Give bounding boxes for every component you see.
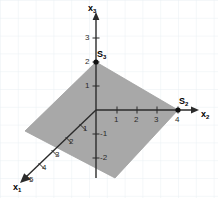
x1-tick-label-3: 3 — [55, 151, 59, 159]
x3-axis-label: x3 — [88, 4, 96, 13]
point-S2-marker — [175, 107, 180, 112]
x3-tick-label-3: 3 — [85, 34, 89, 42]
point-S3-marker — [93, 59, 98, 64]
x2-tick-label-2: 2 — [134, 116, 138, 124]
x1-tick-label-5: 5 — [29, 176, 33, 184]
coordinate-plane-figure: x3 x2 x1 S3 S2 3 2 1 -1 -2 1 2 3 4 1 2 3… — [0, 0, 218, 198]
x2-axis-label-subscript: 2 — [206, 114, 209, 120]
x2-tick-label-4: 4 — [175, 116, 179, 124]
x2-axis-label: x2 — [201, 110, 209, 119]
x3-tick-label-minus1: -1 — [100, 130, 107, 138]
x1-tick-label-2: 2 — [69, 138, 73, 146]
x3-tick-label-2: 2 — [85, 58, 89, 66]
x1-tick-label-4: 4 — [42, 164, 46, 172]
x3-axis-label-subscript: 3 — [93, 8, 96, 14]
x3-tick-label-minus2: -2 — [100, 154, 107, 162]
x3-tick-label-1: 1 — [85, 82, 89, 90]
x2-tick-label-3: 3 — [154, 116, 158, 124]
point-S3-label-subscript: 3 — [103, 54, 106, 60]
point-S2-label: S2 — [179, 97, 188, 106]
x1-tick-label-1: 1 — [83, 125, 87, 133]
point-S2-label-subscript: 2 — [185, 101, 188, 107]
x1-axis-label-subscript: 1 — [18, 187, 21, 193]
x2-tick-label-1: 1 — [114, 116, 118, 124]
x1-axis-label: x1 — [13, 183, 21, 192]
point-S3-label: S3 — [97, 50, 106, 59]
